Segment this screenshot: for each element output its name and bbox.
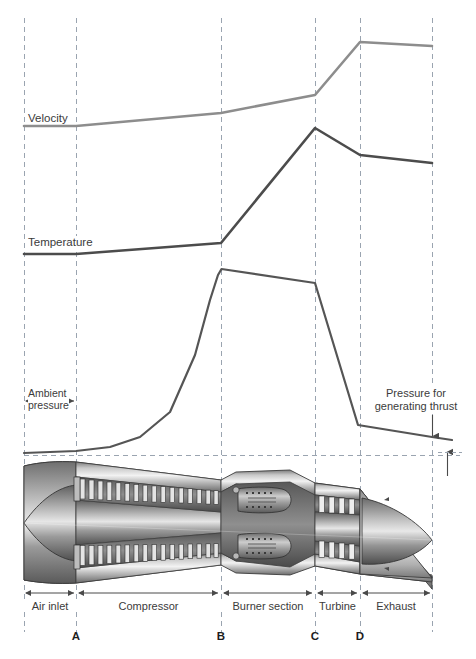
fuel-nozzle-upper xyxy=(233,487,239,493)
thrust-label-line1: Pressure for xyxy=(363,387,469,400)
ambient-pressure-line1: Ambient xyxy=(28,388,69,400)
velocity-label: Velocity xyxy=(26,112,70,124)
station-marker-c: C xyxy=(305,630,325,642)
cowl-lip-mark-upper xyxy=(384,497,389,501)
diagram-svg xyxy=(0,0,476,659)
pressure-curve xyxy=(24,269,452,453)
station-marker-a: A xyxy=(66,630,86,642)
section-label-exhaust: Exhaust xyxy=(360,600,432,612)
fuel-nozzle-lower xyxy=(233,553,239,559)
engine-cutaway-illustration xyxy=(24,462,432,589)
inlet-guide-vane-lower xyxy=(74,545,80,569)
ambient-pressure-line2: pressure xyxy=(28,400,69,412)
combustor-can-lower xyxy=(238,533,291,559)
section-label-burner-section: Burner section xyxy=(221,600,315,612)
diagram-canvas: Velocity Temperature Ambient pressure Pr… xyxy=(0,0,476,659)
velocity-curve xyxy=(24,42,432,126)
inlet-guide-vane-upper xyxy=(74,477,80,501)
section-label-turbine: Turbine xyxy=(313,600,362,612)
section-label-compressor: Compressor xyxy=(76,600,221,612)
ambient-pressure-label: Ambient pressure xyxy=(28,388,69,411)
thrust-label-line2: generating thrust xyxy=(363,400,469,413)
temperature-label: Temperature xyxy=(26,236,95,248)
tail-cone xyxy=(362,498,432,564)
thrust-pressure-label: Pressure for generating thrust xyxy=(363,387,469,413)
combustor-can-upper xyxy=(238,487,291,513)
station-marker-b: B xyxy=(211,630,231,642)
section-label-air-inlet: Air inlet xyxy=(24,600,76,612)
station-marker-d: D xyxy=(350,630,370,642)
